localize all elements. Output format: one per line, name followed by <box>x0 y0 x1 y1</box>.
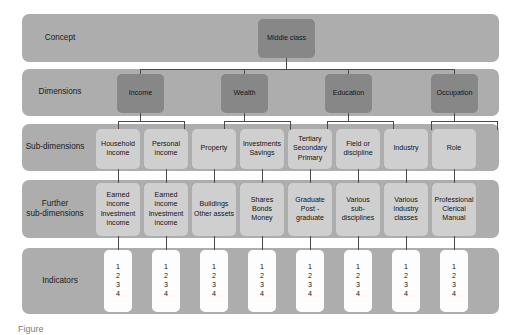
connector-further-to-indicator-4 <box>262 236 263 250</box>
node-label-line: income <box>155 200 178 209</box>
indicator-item: 3 <box>356 281 360 290</box>
node-sub-dimension-investments-savings[interactable]: Investments Savings <box>240 129 284 169</box>
node-label: Education <box>333 89 365 98</box>
indicator-item: 1 <box>164 263 168 272</box>
node-label-line: sub- <box>351 205 365 214</box>
row-label-further-sub-dimensions: Further sub-dimensions <box>12 199 98 218</box>
node-label-line: discipline <box>343 149 372 158</box>
node-label-line: Field or <box>346 140 370 149</box>
node-indicators-7[interactable]: 1 2 3 4 <box>392 250 420 312</box>
node-label: Income <box>129 89 152 98</box>
node-label-line: Secondary <box>293 144 327 153</box>
node-further-sub-various-sub-disciplines[interactable]: Various sub- disciplines <box>336 183 380 236</box>
node-label: Occupation <box>437 89 473 98</box>
indicator-item: 3 <box>404 281 408 290</box>
figure-canvas: Concept Dimensions Sub-dimensions Furthe… <box>0 0 513 335</box>
connector-sub-to-further-6 <box>358 169 359 183</box>
indicator-item: 2 <box>356 272 360 281</box>
node-label-line: Tertiary <box>298 135 321 144</box>
indicator-item: 1 <box>116 263 120 272</box>
node-label-line: Household <box>101 140 135 149</box>
indicator-item: 1 <box>356 263 360 272</box>
indicator-item: 3 <box>308 281 312 290</box>
node-dimension-education[interactable]: Education <box>325 74 372 113</box>
node-sub-dimension-tertiary-secondary-primary[interactable]: Tertiary Secondary Primary <box>288 129 332 169</box>
indicator-item: 2 <box>452 272 456 281</box>
node-sub-dimension-role[interactable]: Role <box>432 129 476 169</box>
node-concept-middle-class[interactable]: Middle class <box>258 19 315 58</box>
connector-sub-to-further-7 <box>406 169 407 183</box>
indicator-item: 4 <box>452 290 456 299</box>
node-sub-dimension-property[interactable]: Property <box>192 129 236 169</box>
indicator-item: 3 <box>164 281 168 290</box>
indicator-item: 2 <box>164 272 168 281</box>
node-indicators-2[interactable]: 1 2 3 4 <box>152 250 180 312</box>
node-label-line: income <box>107 200 130 209</box>
connector-occupation-bus <box>431 121 497 122</box>
connector-further-to-indicator-1 <box>118 236 119 250</box>
indicator-item: 4 <box>404 290 408 299</box>
indicator-item: 1 <box>452 263 456 272</box>
indicator-item: 4 <box>308 290 312 299</box>
node-indicators-4[interactable]: 1 2 3 4 <box>248 250 276 312</box>
node-label-line: Various <box>394 196 418 205</box>
row-label-sub-dimensions: Sub-dimensions <box>12 142 98 152</box>
node-further-sub-personal-earned-investment[interactable]: Earned income Investment income <box>144 183 188 236</box>
node-indicators-6[interactable]: 1 2 3 4 <box>344 250 372 312</box>
node-label-line: Post - <box>301 205 320 214</box>
node-label-line: Earned <box>107 191 130 200</box>
node-label-line: income <box>155 149 178 158</box>
node-indicators-1[interactable]: 1 2 3 4 <box>104 250 132 312</box>
node-indicators-8[interactable]: 1 2 3 4 <box>440 250 468 312</box>
indicator-item: 3 <box>260 281 264 290</box>
node-label-line: Industry <box>393 144 418 153</box>
connector-further-to-indicator-3 <box>214 236 215 250</box>
node-dimension-income[interactable]: Income <box>117 74 164 113</box>
indicator-item: 2 <box>212 272 216 281</box>
node-dimension-wealth[interactable]: Wealth <box>221 74 268 113</box>
connector-concept-bus <box>140 69 454 70</box>
node-further-sub-shares-bonds-money[interactable]: Shares Bonds Money <box>240 183 284 236</box>
node-further-sub-buildings-other-assets[interactable]: Buildings Other assets <box>192 183 236 236</box>
connector-sub-to-further-8 <box>454 169 455 183</box>
node-sub-dimension-household-income[interactable]: Household income <box>96 129 140 169</box>
node-label-line: Property <box>201 144 228 153</box>
connector-sub-to-further-2 <box>166 169 167 183</box>
connector-further-to-indicator-5 <box>310 236 311 250</box>
node-indicators-5[interactable]: 1 2 3 4 <box>296 250 324 312</box>
node-dimension-occupation[interactable]: Occupation <box>431 74 478 113</box>
indicator-item: 4 <box>212 290 216 299</box>
node-label-line: Role <box>447 144 462 153</box>
node-label-line: Primary <box>298 154 322 163</box>
node-further-sub-graduate-postgraduate[interactable]: Graduate Post - graduate <box>288 183 332 236</box>
connector-further-to-indicator-6 <box>358 236 359 250</box>
connector-sub-to-further-4 <box>262 169 263 183</box>
node-label-line: Investments <box>243 140 281 149</box>
indicator-item: 4 <box>164 290 168 299</box>
node-label-line: Personal <box>152 140 180 149</box>
row-label-dimensions: Dimensions <box>22 87 98 97</box>
indicator-item: 1 <box>260 263 264 272</box>
node-further-sub-various-industry-classes[interactable]: Various industry classes <box>384 183 428 236</box>
connector-sub-to-further-5 <box>310 169 311 183</box>
node-label-line: Buildings <box>200 200 229 209</box>
node-label-line: Manual <box>442 214 465 223</box>
row-label-concept: Concept <box>22 33 98 43</box>
connector-further-to-indicator-8 <box>454 236 455 250</box>
figure-caption: Figure <box>18 324 44 334</box>
node-label-line: graduate <box>296 214 324 223</box>
node-label-line: income <box>155 219 178 228</box>
connector-occupation-drop-2 <box>497 121 498 130</box>
connector-concept-stem <box>286 58 287 69</box>
connector-sub-to-further-3 <box>214 169 215 183</box>
node-label-line: disciplines <box>342 214 375 223</box>
node-indicators-3[interactable]: 1 2 3 4 <box>200 250 228 312</box>
node-sub-dimension-industry[interactable]: Industry <box>384 129 428 169</box>
indicator-item: 3 <box>452 281 456 290</box>
node-further-sub-income-earned-investment[interactable]: Earned income Investment income <box>96 183 140 236</box>
node-further-sub-professional-clerical-manual[interactable]: Professional Clerical Manual <box>432 183 476 236</box>
node-sub-dimension-personal-income[interactable]: Personal income <box>144 129 188 169</box>
node-sub-dimension-field-or-discipline[interactable]: Field or discipline <box>336 129 380 169</box>
connector-wealth-bus <box>224 121 290 122</box>
indicator-item: 4 <box>260 290 264 299</box>
